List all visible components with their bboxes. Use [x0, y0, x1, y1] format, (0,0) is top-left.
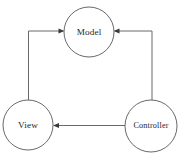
- edge-view-to-model-line: [29, 31, 60, 100]
- mvc-diagram: Model View Controller: [0, 0, 180, 164]
- node-view-label: View: [18, 120, 38, 130]
- mvc-diagram-canvas: Model View Controller: [0, 0, 180, 164]
- edge-controller-to-view: [53, 123, 125, 128]
- node-view[interactable]: View: [3, 100, 53, 150]
- node-controller[interactable]: Controller: [125, 100, 177, 152]
- edge-controller-to-model-line: [118, 31, 152, 100]
- node-model-label: Model: [77, 27, 102, 37]
- node-model[interactable]: Model: [64, 7, 114, 57]
- edge-view-to-model: [29, 28, 65, 100]
- arrowhead-into-view-right: [53, 123, 59, 128]
- node-controller-label: Controller: [133, 121, 168, 130]
- edge-controller-to-model: [114, 28, 153, 100]
